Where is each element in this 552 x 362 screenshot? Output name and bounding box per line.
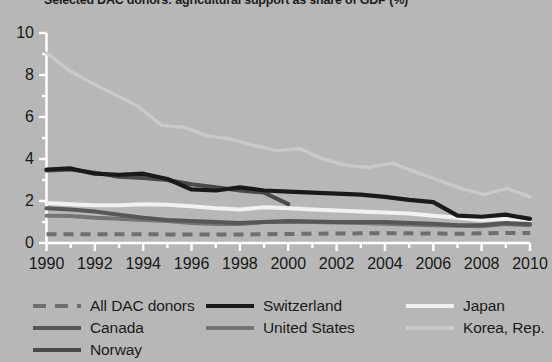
legend-item[interactable]: Norway (33, 340, 195, 360)
legend-item[interactable]: Canada (33, 318, 195, 338)
legend-item[interactable]: Switzerland (206, 296, 355, 316)
legend-swatch-icon (406, 326, 454, 330)
line-chart-svg (0, 0, 541, 292)
legend-item[interactable]: Japan (406, 296, 545, 316)
legend-item[interactable]: All DAC donors (33, 296, 195, 316)
legend-swatch-icon (33, 326, 81, 331)
legend-label: United States (263, 319, 355, 337)
legend-item[interactable]: United States (206, 318, 355, 338)
y-tick-label: 6 (2, 109, 34, 125)
legend-label: All DAC donors (90, 297, 195, 315)
legend-swatch-icon (206, 304, 254, 309)
legend-swatch-icon (33, 304, 81, 309)
legend-column: All DAC donorsCanadaNorway (33, 296, 195, 362)
legend-label: Switzerland (263, 297, 342, 315)
y-tick-label: 10 (2, 25, 34, 41)
series-line (47, 233, 531, 235)
legend-label: Canada (90, 319, 144, 337)
chart-legend: All DAC donorsCanadaNorwaySwitzerlandUni… (0, 296, 541, 357)
legend-swatch-icon (33, 348, 81, 353)
legend-swatch-icon (206, 326, 254, 331)
legend-column: SwitzerlandUnited States (206, 296, 355, 340)
y-tick-label: 2 (2, 193, 34, 209)
x-axis-ticks (47, 243, 531, 251)
y-tick-label: 8 (2, 67, 34, 83)
x-tick-label: 2010 (502, 256, 552, 272)
legend-item[interactable]: Korea, Rep. (406, 318, 545, 338)
axis-lines (47, 33, 531, 243)
y-tick-label: 4 (2, 151, 34, 167)
plot-area (0, 0, 541, 292)
legend-label: Korea, Rep. (463, 319, 545, 337)
series-line (47, 168, 531, 218)
legend-column: JapanKorea, Rep. (406, 296, 545, 340)
legend-label: Japan (463, 297, 505, 315)
legend-swatch-icon (406, 304, 454, 309)
legend-label: Norway (90, 341, 142, 359)
y-tick-label: 0 (2, 235, 34, 251)
